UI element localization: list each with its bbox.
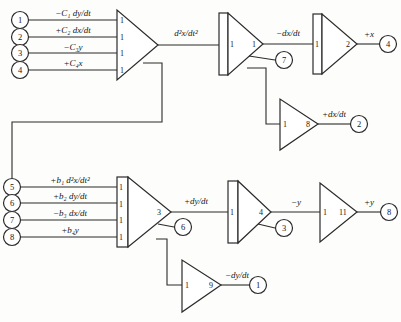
input-node-2[interactable]: 2 (12, 29, 29, 46)
top-summer-gain-input-1: 1 (120, 16, 124, 25)
input-node-8-label: 8 (10, 232, 14, 242)
amplifier-minus-dy-dt[interactable]: 1 9 (182, 260, 221, 312)
integrator-2-output-gain: 2 (346, 40, 350, 49)
signal-label-b1-d2x-dt2: +b₁ d²x/dt² (50, 175, 90, 185)
top-summer-gain-input-2: 1 (120, 33, 124, 42)
tap-node-6-label: 6 (181, 222, 185, 232)
wire-tap-node-7 (249, 56, 275, 60)
amplifier-plus-dx-dt[interactable]: 1 8 (280, 99, 318, 150)
input-node-5[interactable]: 5 (4, 179, 21, 196)
signal-label-plus-dy-dt: +dy/dt (184, 196, 209, 206)
input-node-5-label: 5 (10, 182, 14, 192)
bottom-summer-gain-input-1: 1 (119, 183, 123, 192)
signal-label-plus-c4-x: +C₄x (63, 58, 82, 68)
bottom-summer-gain-input-3: 1 (119, 216, 123, 225)
output-node-1-label: 1 (256, 280, 260, 290)
output-node-4[interactable]: 4 (380, 36, 397, 53)
top-summer-gain-input-4: 1 (120, 66, 124, 75)
bottom-summer-gain-input-4: 1 (119, 233, 123, 242)
output-node-1[interactable]: 1 (250, 277, 267, 294)
input-node-7[interactable]: 7 (4, 212, 21, 229)
input-node-1-label: 1 (18, 15, 22, 25)
top-summer-amplifier[interactable]: 1 1 1 1 (117, 10, 158, 80)
signal-label-plus-x: +x (364, 29, 374, 39)
wire-to-dydt-amplifier (156, 239, 182, 285)
wire-tap-node-3 (258, 224, 275, 228)
bottom-summer-output-gain: 3 (157, 208, 161, 217)
input-node-8[interactable]: 8 (4, 229, 21, 246)
input-node-3-label: 3 (18, 48, 22, 58)
integrator-1[interactable]: 1 1 (219, 13, 263, 75)
signal-label-minus-y: −y (291, 197, 301, 207)
amplifier-dxdt-input-gain: 1 (283, 120, 287, 129)
input-node-6[interactable]: 6 (4, 195, 21, 212)
input-node-4[interactable]: 4 (12, 62, 29, 79)
input-node-2-label: 2 (18, 32, 22, 42)
amplifier-dxdt-output-gain: 8 (306, 120, 310, 129)
signal-label-b2-dy-dt: +b₂ dy/dt (53, 191, 87, 201)
integrator-3[interactable]: 1 4 (228, 181, 271, 243)
tap-node-7[interactable]: 7 (276, 52, 293, 69)
amplifier-dydt-input-gain: 1 (185, 281, 189, 290)
integrator-2[interactable]: 1 2 (313, 14, 357, 74)
analog-computer-diagram: 1 2 3 4 −C₁ dy/dt +C₂ dx/dt −C₃y +C₄x 1 … (0, 0, 401, 322)
output-node-8-label: 8 (387, 207, 391, 217)
integrator-2-input-gain: 1 (315, 40, 319, 49)
feedback-wire-to-node-5 (12, 63, 162, 178)
signal-label-plus-c2-dxdt: +C₂ dx/dt (55, 25, 91, 35)
signal-label-minus-dx-dt: −dx/dt (276, 28, 301, 38)
input-node-6-label: 6 (10, 198, 14, 208)
bottom-summer-amplifier[interactable]: 1 1 1 1 3 (117, 177, 171, 247)
input-node-7-label: 7 (10, 215, 14, 225)
tap-node-3[interactable]: 3 (276, 220, 293, 237)
integrator-1-input-gain: 1 (230, 40, 234, 49)
tap-node-7-label: 7 (282, 55, 286, 65)
signal-label-minus-c1-dydt: −C₁ dy/dt (55, 8, 91, 18)
signal-label-minus-c3-y: −C₃y (63, 42, 82, 52)
integrator-1-output-gain: 1 (252, 40, 256, 49)
signal-label-d2x-dt2: d²x/dt² (174, 28, 198, 38)
signal-label-plus-b4-y: +b₄y (61, 225, 79, 235)
input-node-3[interactable]: 3 (12, 45, 29, 62)
signal-label-minus-b3-dx-dt: −b₃ dx/dt (53, 208, 87, 218)
wire-to-dxdt-amplifier (247, 68, 280, 124)
input-node-1[interactable]: 1 (12, 12, 29, 29)
signal-label-plus-y: +y (364, 197, 374, 207)
output-node-2[interactable]: 2 (351, 116, 368, 133)
amplifier-y-output-gain: 11 (339, 208, 347, 217)
amplifier-plus-y[interactable]: 1 11 (320, 183, 357, 242)
integrator-3-input-gain: 1 (230, 208, 234, 217)
tap-node-6[interactable]: 6 (175, 219, 192, 236)
signal-label-plus-dx-dt: +dx/dt (322, 109, 347, 119)
wire-tap-node-6 (158, 224, 174, 227)
amplifier-y-input-gain: 1 (323, 208, 327, 217)
integrator-3-output-gain: 4 (259, 208, 263, 217)
signal-label-minus-dy-dt: −dy/dt (225, 270, 250, 280)
bottom-summer-gain-input-2: 1 (119, 200, 123, 209)
tap-node-3-label: 3 (282, 223, 286, 233)
output-node-2-label: 2 (357, 119, 361, 129)
top-summer-gain-input-3: 1 (120, 49, 124, 58)
output-node-8[interactable]: 8 (381, 204, 398, 221)
amplifier-dydt-output-gain: 9 (209, 281, 213, 290)
